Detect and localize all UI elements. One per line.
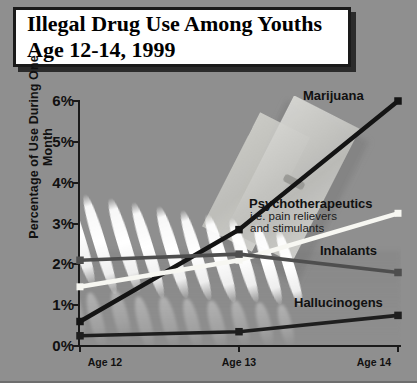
series-marker xyxy=(394,269,402,277)
series-marker xyxy=(76,257,84,265)
series-marker xyxy=(394,97,402,105)
series-marker xyxy=(235,250,243,258)
series-label-psychotherapeutics: Psychotherapeutics xyxy=(249,196,373,211)
chart-figure: Illegal Drug Use Among Youths Age 12-14,… xyxy=(0,0,417,383)
series-marker xyxy=(235,328,243,336)
series-marker xyxy=(76,318,84,326)
series-marker xyxy=(395,210,402,217)
series-hallucinogens xyxy=(76,312,402,340)
series-line xyxy=(80,101,398,322)
series-marker xyxy=(76,332,84,340)
series-sublabel-psychotherapeutics-2: and stimulants xyxy=(250,222,324,235)
series-label-inhalants: Inhalants xyxy=(320,243,377,258)
series-marker xyxy=(235,226,243,234)
series-marker xyxy=(394,312,402,320)
series-label-marijuana: Marijuana xyxy=(303,88,364,103)
series-layer xyxy=(0,0,417,383)
series-marijuana xyxy=(76,97,402,325)
series-marker xyxy=(77,283,84,290)
series-label-hallucinogens: Hallucinogens xyxy=(294,295,383,310)
